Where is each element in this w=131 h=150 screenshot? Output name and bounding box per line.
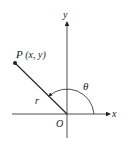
point-p: [13, 61, 17, 65]
origin-label: O: [56, 118, 63, 129]
angle-label: θ: [83, 80, 89, 92]
radius-line: [15, 63, 67, 114]
y-axis-label: y: [62, 9, 68, 20]
point-label: P (x, y): [15, 48, 46, 61]
angle-arc: [49, 89, 94, 114]
radius-label: r: [35, 95, 39, 106]
polar-diagram: P (x, y) r θ O x y: [0, 0, 131, 150]
x-axis-label: x: [111, 108, 117, 119]
